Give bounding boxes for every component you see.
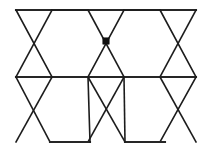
upper-right-group	[124, 10, 196, 77]
lower-hexagon-right-inner-wall	[124, 77, 125, 142]
upper-left-crossing-group	[16, 10, 52, 77]
figure-canvas	[0, 0, 210, 149]
tessellation-diagram	[0, 0, 210, 149]
center-vertex-dot-group	[103, 38, 109, 44]
lower-right-group	[160, 77, 196, 142]
lower-center-crossing-group	[88, 77, 125, 142]
lower-left-group	[16, 77, 52, 142]
center-vertex-dot	[103, 38, 109, 44]
lower-hexagon-left-inner-wall	[88, 77, 90, 142]
upper-left-hexagon-group	[52, 10, 124, 77]
